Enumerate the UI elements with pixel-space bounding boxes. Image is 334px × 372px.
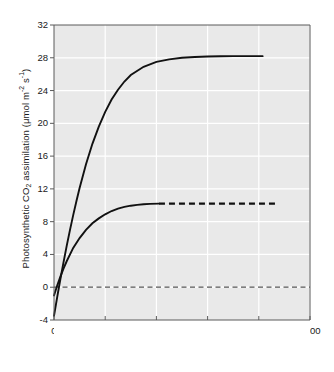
photosynthesis-light-response-chart: Photosynthetic CO2 assimilation (μmol m-…: [0, 0, 334, 372]
plot-canvas: [0, 0, 334, 372]
below-axis-mask: [54, 320, 310, 372]
plot-background: [54, 25, 310, 320]
